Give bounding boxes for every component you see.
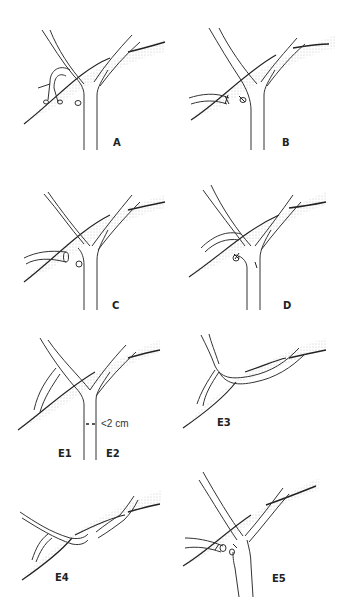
panel-label: E4 xyxy=(55,572,69,583)
panel-label: E5 xyxy=(272,573,286,584)
panel-label: B xyxy=(282,137,290,148)
panel-label: A xyxy=(113,137,121,148)
panel-label-e2: E2 xyxy=(106,448,120,459)
panel-e4: E4 xyxy=(0,460,171,609)
biliary-tree-illustration xyxy=(171,150,343,310)
biliary-tree-illustration xyxy=(0,310,171,460)
measurement-right: <2 cm xyxy=(101,418,129,429)
biliary-tree-illustration xyxy=(171,310,343,460)
biliary-tree-illustration xyxy=(0,0,171,150)
panel-e3: E3 xyxy=(171,310,343,460)
panel-e1-e2: >2 cm <2 cm E1 E2 xyxy=(0,310,171,460)
panel-d: D xyxy=(171,150,343,310)
biliary-tree-illustration xyxy=(0,150,171,310)
panel-c: C xyxy=(0,150,171,310)
biliary-tree-illustration xyxy=(171,0,343,150)
panel-a: A xyxy=(0,0,171,150)
panel-label-e1: E1 xyxy=(58,448,72,459)
panel-e5: E5 xyxy=(171,460,343,609)
panel-b: B xyxy=(171,0,343,150)
biliary-tree-illustration xyxy=(171,460,343,609)
biliary-tree-illustration xyxy=(0,460,171,609)
panel-label: E3 xyxy=(217,417,231,428)
